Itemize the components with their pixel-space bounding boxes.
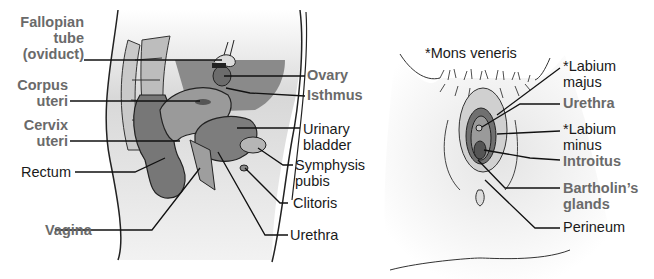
label-line: Fallopian: [12, 14, 84, 30]
label-line: tube: [12, 30, 84, 46]
label-line: Bartholin’s: [563, 180, 638, 196]
label-labium-majus: *Labium majus: [563, 58, 616, 90]
label-line: uteri: [4, 133, 68, 149]
label-urinary-bladder: Urinary bladder: [303, 121, 351, 153]
label-line: bladder: [303, 137, 351, 153]
label-bartholins-glands: Bartholin’s glands: [563, 180, 638, 212]
label-line: (oviduct): [12, 46, 84, 62]
label-urethra-left: Urethra: [290, 227, 338, 243]
label-introitus: Introitus: [563, 153, 621, 169]
label-isthmus: Isthmus: [307, 87, 363, 103]
label-line: uteri: [4, 93, 68, 109]
label-perineum: Perineum: [563, 219, 625, 235]
label-ovary: Ovary: [307, 67, 348, 83]
label-fallopian-tube: Fallopian tube (oviduct): [12, 14, 84, 62]
label-clitoris: Clitoris: [293, 195, 337, 211]
label-line: pubis: [295, 173, 365, 189]
label-line: majus: [563, 74, 616, 90]
label-line: minus: [563, 137, 616, 153]
label-rectum: Rectum: [21, 164, 71, 180]
label-line: Urinary: [303, 121, 351, 137]
label-vagina: Vagina: [45, 222, 92, 238]
label-line: *Labium: [563, 121, 616, 137]
label-mons-veneris: *Mons veneris: [425, 45, 517, 61]
label-line: *Labium: [563, 58, 616, 74]
label-line: Symphysis: [295, 157, 365, 173]
label-urethra-right: Urethra: [563, 95, 615, 111]
sagittal-pelvis-drawing: [106, 10, 306, 262]
label-labium-minus: *Labium minus: [563, 121, 616, 153]
label-symphysis-pubis: Symphysis pubis: [295, 157, 365, 189]
label-line: Cervix: [4, 117, 68, 133]
label-corpus-uteri: Corpus uteri: [4, 77, 68, 109]
label-line: glands: [563, 196, 638, 212]
label-line: Corpus: [4, 77, 68, 93]
label-cervix-uteri: Cervix uteri: [4, 117, 68, 149]
